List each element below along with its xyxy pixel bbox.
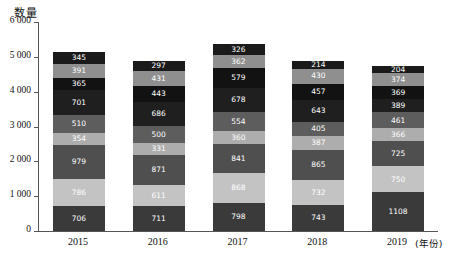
y-tick-mark bbox=[34, 127, 38, 128]
bar-segment[interactable]: 369 bbox=[372, 86, 424, 99]
plot-area: 01 0002 0003 0004 0005 0006 000 70678697… bbox=[38, 22, 438, 232]
bar-segment[interactable]: 678 bbox=[213, 88, 265, 112]
bar-segment[interactable]: 865 bbox=[292, 150, 344, 180]
bar-column[interactable]: 711611871331500686443431297 bbox=[133, 61, 185, 231]
bar-segment[interactable]: 725 bbox=[372, 141, 424, 166]
y-tick-mark bbox=[34, 196, 38, 197]
bar-segment-value: 369 bbox=[391, 89, 405, 97]
y-tick: 2 000 bbox=[2, 161, 38, 162]
bar-segment[interactable]: 365 bbox=[53, 78, 105, 91]
bar-segment-value: 979 bbox=[72, 158, 86, 166]
bar-segment[interactable]: 979 bbox=[53, 145, 105, 179]
bar-segment[interactable]: 354 bbox=[53, 133, 105, 145]
y-tick: 1 000 bbox=[2, 196, 38, 197]
bar-segment[interactable]: 366 bbox=[372, 128, 424, 141]
bar-segment-value: 405 bbox=[311, 125, 325, 133]
bar-column[interactable]: 706786979354510701365391345 bbox=[53, 52, 105, 231]
bar-segment-value: 743 bbox=[311, 214, 325, 222]
bar-segment-value: 443 bbox=[152, 90, 166, 98]
y-tick-label: 3 000 bbox=[10, 120, 31, 130]
bar-segment[interactable]: 387 bbox=[292, 136, 344, 149]
bar-segment[interactable]: 360 bbox=[213, 131, 265, 144]
y-tick-mark bbox=[34, 92, 38, 93]
chart-root: 数量 01 0002 0003 0004 0005 0006 000 70678… bbox=[0, 0, 449, 263]
bar-segment[interactable]: 430 bbox=[292, 69, 344, 84]
bar-segment-value: 326 bbox=[231, 46, 245, 54]
bar-segment[interactable]: 841 bbox=[213, 144, 265, 173]
bar-segment[interactable]: 443 bbox=[133, 86, 185, 101]
bar-column[interactable]: 798868841360554678579362326 bbox=[213, 44, 265, 231]
bar-segment[interactable]: 750 bbox=[372, 166, 424, 192]
bar-segment[interactable]: 686 bbox=[133, 102, 185, 126]
bar-segment-value: 461 bbox=[391, 117, 405, 125]
bar-segment[interactable]: 1108 bbox=[372, 192, 424, 231]
bar-segment-value: 711 bbox=[152, 215, 166, 223]
bar-segment-value: 204 bbox=[391, 66, 405, 73]
bar-segment[interactable]: 743 bbox=[292, 205, 344, 231]
bar-series-container: 7067869793545107013653913457116118713315… bbox=[39, 22, 438, 231]
bar-segment[interactable]: 554 bbox=[213, 112, 265, 131]
bar-segment[interactable]: 711 bbox=[133, 206, 185, 231]
x-axis-line bbox=[38, 231, 438, 232]
bar-segment-value: 365 bbox=[72, 80, 86, 88]
bar-segment-value: 706 bbox=[72, 215, 86, 223]
bar-segment-value: 331 bbox=[152, 145, 166, 153]
bar-segment-value: 798 bbox=[231, 213, 245, 221]
bar-segment[interactable]: 786 bbox=[53, 179, 105, 206]
bar-segment[interactable]: 500 bbox=[133, 126, 185, 143]
bar-segment[interactable]: 431 bbox=[133, 71, 185, 86]
bar-segment-value: 871 bbox=[152, 166, 166, 174]
y-tick: 4 000 bbox=[2, 92, 38, 93]
bar-segment-value: 1108 bbox=[389, 208, 408, 216]
bar-segment[interactable]: 611 bbox=[133, 185, 185, 206]
bar-segment[interactable]: 374 bbox=[372, 73, 424, 86]
bar-segment-value: 841 bbox=[231, 155, 245, 163]
bar-segment-value: 362 bbox=[231, 58, 245, 66]
x-tick-label: 2018 bbox=[277, 236, 357, 247]
bar-segment-value: 214 bbox=[311, 61, 325, 68]
bar-segment[interactable]: 214 bbox=[292, 61, 344, 68]
bar-segment[interactable]: 871 bbox=[133, 155, 185, 185]
y-tick: 0 bbox=[2, 231, 38, 232]
bar-segment[interactable]: 868 bbox=[213, 173, 265, 203]
bar-segment-value: 686 bbox=[152, 110, 166, 118]
bar-segment-value: 389 bbox=[391, 102, 405, 110]
y-tick-label: 2 000 bbox=[10, 154, 31, 164]
bar-column[interactable]: 743732865387405643457430214 bbox=[292, 61, 344, 231]
bar-segment[interactable]: 326 bbox=[213, 44, 265, 55]
bar-segment-value: 500 bbox=[152, 131, 166, 139]
bar-column[interactable]: 1108750725366461389369374204 bbox=[372, 66, 424, 231]
bar-segment[interactable]: 457 bbox=[292, 84, 344, 100]
bar-segment-value: 457 bbox=[311, 88, 325, 96]
bar-segment[interactable]: 706 bbox=[53, 206, 105, 231]
bar-segment[interactable]: 461 bbox=[372, 112, 424, 128]
bar-segment[interactable]: 362 bbox=[213, 55, 265, 68]
bar-segment[interactable]: 331 bbox=[133, 143, 185, 155]
bar-segment[interactable]: 405 bbox=[292, 122, 344, 136]
bar-segment[interactable]: 798 bbox=[213, 203, 265, 231]
bar-segment[interactable]: 389 bbox=[372, 99, 424, 113]
bar-segment-value: 725 bbox=[391, 150, 405, 158]
bar-segment-value: 387 bbox=[311, 139, 325, 147]
y-tick: 5 000 bbox=[2, 57, 38, 58]
bar-segment[interactable]: 732 bbox=[292, 180, 344, 205]
bar-segment[interactable]: 204 bbox=[372, 66, 424, 73]
bar-segment-value: 611 bbox=[152, 192, 166, 200]
bar-segment-value: 865 bbox=[311, 161, 325, 169]
y-tick: 3 000 bbox=[2, 127, 38, 128]
bar-segment[interactable]: 701 bbox=[53, 90, 105, 114]
bar-segment[interactable]: 345 bbox=[53, 52, 105, 64]
y-tick-label: 6 000 bbox=[10, 15, 31, 25]
bar-segment[interactable]: 391 bbox=[53, 64, 105, 78]
bar-segment-value: 750 bbox=[391, 176, 405, 184]
bar-segment[interactable]: 579 bbox=[213, 68, 265, 88]
bar-segment[interactable]: 510 bbox=[53, 115, 105, 133]
y-tick-label: 0 bbox=[26, 224, 31, 234]
bar-segment-value: 579 bbox=[231, 74, 245, 82]
bar-segment[interactable]: 643 bbox=[292, 100, 344, 122]
bar-segment-value: 786 bbox=[72, 189, 86, 197]
y-tick-mark bbox=[34, 161, 38, 162]
x-tick-label: 2015 bbox=[38, 236, 118, 247]
bar-segment[interactable]: 297 bbox=[133, 61, 185, 71]
y-tick-mark bbox=[34, 57, 38, 58]
